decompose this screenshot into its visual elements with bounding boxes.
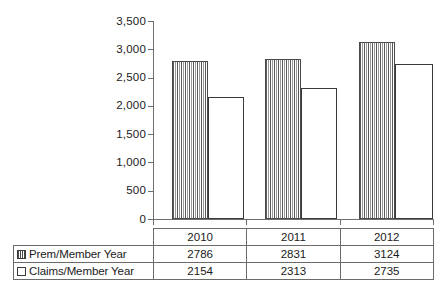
y-tick-label-3500: 3,500 [86,16,146,27]
bar-claims-2010 [208,97,244,219]
column-header-2010: 2010 [154,229,247,246]
cell-claims-2012: 2735 [340,263,433,280]
y-tick-label-0: 0 [86,214,146,225]
table-row: Claims/Member Year 2154 2313 2735 [14,263,434,280]
y-tick-1000 [148,162,154,163]
bar-chart-figure: 3,500 3,000 2,500 2,000 1,500 1,000 500 … [0,0,446,289]
bar-prem-2011 [265,59,301,219]
y-tick-label-500: 500 [86,185,146,196]
bar-prem-2010 [172,61,208,219]
cell-prem-2011: 2831 [247,246,340,263]
legend-label-prem: Prem/Member Year [29,248,126,260]
chart-data-table: 2010 2011 2012 Prem/Member Year 2786 283… [13,228,434,280]
y-tick-label-2000: 2,000 [86,100,146,111]
y-tick-3000 [148,49,154,50]
table-corner-cell [14,229,154,246]
bar-claims-2011 [301,88,337,219]
x-tick-start [153,219,154,225]
hollow-square-icon [17,267,26,276]
cell-prem-2010: 2786 [154,246,247,263]
y-tick-label-3000: 3,000 [86,44,146,55]
legend-label-claims: Claims/Member Year [29,265,134,277]
cell-claims-2010: 2154 [154,263,247,280]
y-tick-label-1000: 1,000 [86,157,146,168]
y-tick-2000 [148,106,154,107]
striped-square-icon [17,250,26,259]
y-tick-3500 [148,21,154,22]
table-row: Prem/Member Year 2786 2831 3124 [14,246,434,263]
column-header-2012: 2012 [340,229,433,246]
cell-prem-2012: 3124 [340,246,433,263]
legend-item-claims-member-year: Claims/Member Year [14,263,154,280]
y-tick-1500 [148,134,154,135]
y-axis-line [153,21,154,219]
x-tick-end [433,219,434,225]
y-tick-2500 [148,78,154,79]
x-axis-line [153,219,433,220]
x-tick-2011-2012 [340,219,341,225]
y-tick-label-2500: 2,500 [86,72,146,83]
legend-item-prem-member-year: Prem/Member Year [14,246,154,263]
x-tick-2010-2011 [246,219,247,225]
column-header-2011: 2011 [247,229,340,246]
y-tick-500 [148,191,154,192]
y-tick-label-1500: 1,500 [86,129,146,140]
bar-claims-2012 [395,64,433,219]
bar-prem-2012 [359,42,395,219]
cell-claims-2011: 2313 [247,263,340,280]
plot-area: 3,500 3,000 2,500 2,000 1,500 1,000 500 … [0,0,446,224]
table-row-years: 2010 2011 2012 [14,229,434,246]
